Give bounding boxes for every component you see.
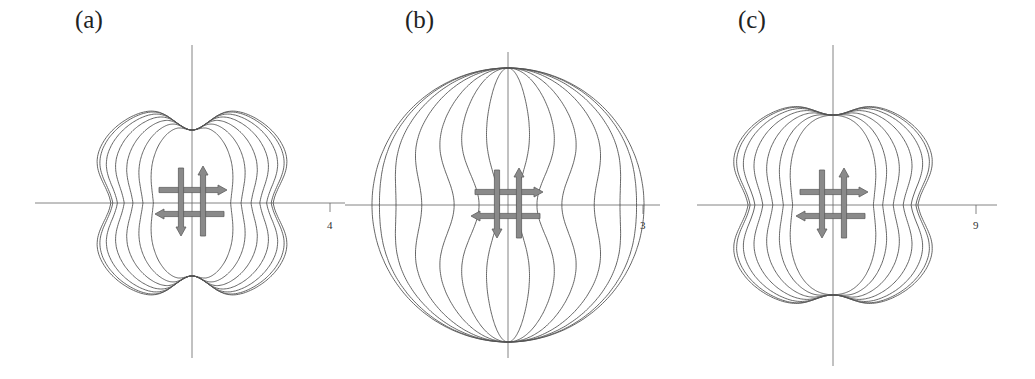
arrow-icon [198, 166, 208, 236]
arrow-icon [492, 170, 502, 238]
arrow-icon [839, 168, 849, 238]
arrow-icon [471, 211, 540, 221]
tick-label-c: 9 [973, 219, 979, 231]
panel-label-c: (c) [738, 6, 766, 34]
figure: (a) (b) (c) 4 3 9 [0, 0, 1035, 379]
arrow-icon [176, 168, 186, 236]
panel-label-b: (b) [405, 6, 434, 34]
arrow-cluster-icon [796, 168, 868, 238]
arrow-cluster-icon [471, 168, 543, 238]
arrow-icon [514, 168, 524, 238]
polar-patterns-svg [0, 0, 1035, 379]
arrow-cluster-icon [155, 166, 227, 236]
tick-label-a: 4 [327, 219, 333, 231]
arrow-icon [159, 185, 227, 195]
arrow-icon [800, 187, 868, 197]
arrow-icon [475, 187, 543, 197]
arrow-icon [796, 211, 865, 221]
panel-label-a: (a) [75, 6, 103, 34]
arrow-icon [155, 209, 224, 219]
tick-label-b: 3 [640, 219, 646, 231]
arrow-icon [817, 170, 827, 238]
